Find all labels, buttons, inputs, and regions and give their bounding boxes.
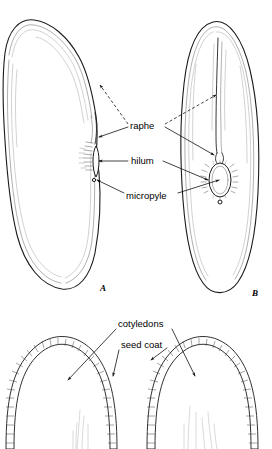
micropyle-b <box>218 200 222 204</box>
micropyle-a <box>92 178 95 181</box>
diagram-labels: raphe hilum micropyle cotyledons seed co… <box>118 120 167 350</box>
seed-coat-right-outer <box>147 337 258 449</box>
seed-diagram-figure: A <box>0 0 272 449</box>
label-raphe: raphe <box>130 120 154 131</box>
cotyledon-interior-texture <box>73 406 217 449</box>
leader-seed-coat-left <box>113 350 119 376</box>
panel-b-seed: B <box>181 22 259 299</box>
label-seed-coat: seed coat <box>121 339 163 350</box>
leader-raphe-a-upper <box>100 85 128 124</box>
label-micropyle: micropyle <box>126 190 167 201</box>
seed-coat-left-rungs <box>6 338 116 443</box>
hilum-b <box>209 163 231 197</box>
panel-a-seed: A <box>3 20 106 293</box>
label-hilum: hilum <box>131 155 154 166</box>
label-cotyledons: cotyledons <box>118 318 164 329</box>
hilum-a <box>93 146 99 177</box>
leader-cotyledons-left <box>68 329 116 380</box>
leader-raphe-a-lower <box>99 127 128 137</box>
leader-micropyle-a <box>97 180 124 193</box>
panel-letter-a: A <box>99 283 106 293</box>
seed-coat-right-rungs <box>147 338 257 443</box>
panel-letter-b: B <box>251 288 258 298</box>
seed-diagram-canvas: A <box>0 0 272 449</box>
seed-coat-left-outer <box>6 337 117 449</box>
seed-a-outline <box>3 20 100 289</box>
